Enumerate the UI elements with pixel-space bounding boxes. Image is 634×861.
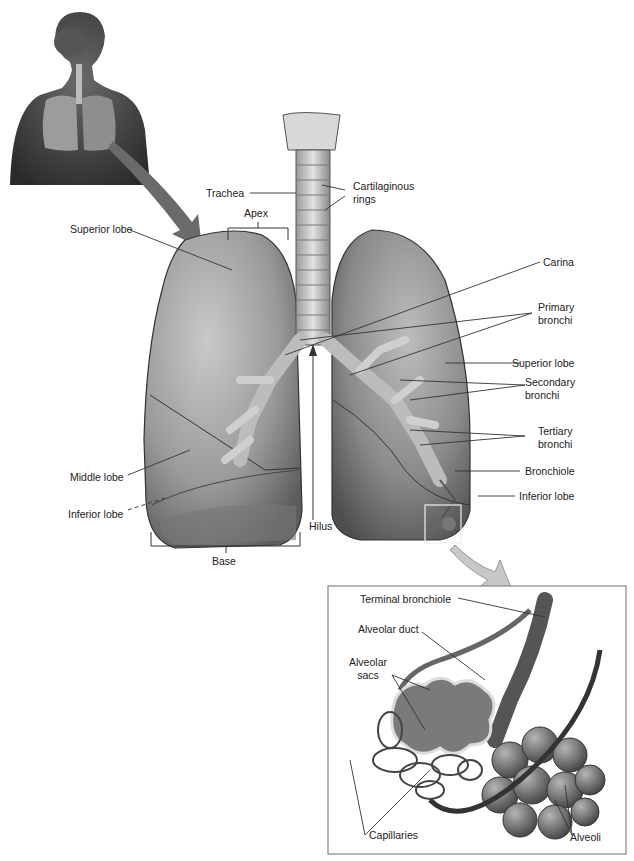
label-terminal-bronchiole: Terminal bronchiole <box>360 593 451 605</box>
label-superior-lobe-left: Superior lobe <box>70 223 132 235</box>
label-hilus: Hilus <box>309 520 332 532</box>
label-alveolar-sacs-line1: Alveolar <box>344 656 392 668</box>
label-alveolar-duct: Alveolar duct <box>358 623 419 635</box>
label-tertiary-bronchi-line2: bronchi <box>538 438 572 450</box>
label-alveolar-sacs-line2: sacs <box>344 669 392 681</box>
label-apex: Apex <box>244 207 268 219</box>
label-middle-lobe: Middle lobe <box>70 471 124 483</box>
label-primary-bronchi-line2: bronchi <box>538 314 572 326</box>
label-tertiary-bronchi-line1: Tertiary <box>538 425 572 437</box>
label-inferior-lobe-left: Inferior lobe <box>68 508 123 520</box>
label-primary-bronchi-line1: Primary <box>538 301 574 313</box>
label-inferior-lobe-right: Inferior lobe <box>519 490 574 502</box>
inset-arrow-icon <box>450 545 512 590</box>
label-carina: Carina <box>543 256 574 268</box>
label-trachea: Trachea <box>206 187 244 199</box>
label-bronchiole: Bronchiole <box>525 465 575 477</box>
label-secondary-bronchi-line2: bronchi <box>525 389 559 401</box>
label-base: Base <box>212 555 236 567</box>
label-secondary-bronchi-line1: Secondary <box>525 376 575 388</box>
label-alveoli: Alveoli <box>570 831 601 843</box>
label-capillaries: Capillaries <box>369 829 418 841</box>
label-superior-lobe-right: Superior lobe <box>512 357 574 369</box>
right-lung <box>144 231 302 548</box>
label-cartilaginous-rings-line2: rings <box>353 193 376 205</box>
label-cartilaginous-rings-line1: Cartilaginous <box>353 180 414 192</box>
